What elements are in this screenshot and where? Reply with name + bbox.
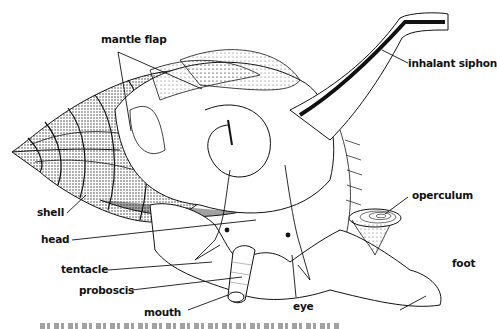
label-shell: shell: [37, 206, 64, 218]
label-inhalant-siphon: inhalant siphon: [408, 57, 497, 69]
label-operculum: operculum: [412, 189, 473, 201]
label-head: head: [41, 233, 69, 245]
caption-text-cropped: [40, 323, 340, 329]
figure-caption-clipped: [40, 322, 360, 329]
label-eye: eye: [293, 300, 314, 312]
label-proboscis: proboscis: [79, 284, 134, 296]
label-mouth: mouth: [144, 306, 181, 318]
label-mantle-flap: mantle flap: [101, 33, 166, 45]
label-tentacle: tentacle: [61, 263, 108, 275]
label-foot: foot: [452, 257, 475, 269]
